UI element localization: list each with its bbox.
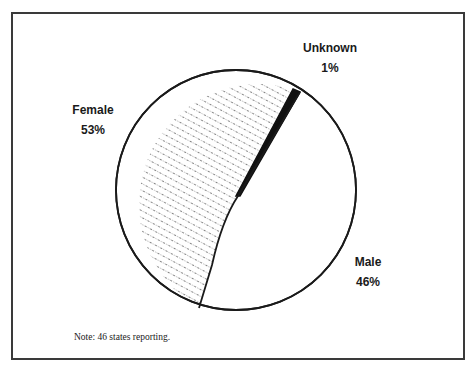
- label-female-name: Female: [53, 100, 133, 120]
- label-female-pct: 53%: [53, 120, 133, 140]
- label-male-name: Male: [328, 252, 408, 272]
- label-male-pct: 46%: [328, 272, 408, 292]
- label-male: Male 46%: [328, 252, 408, 292]
- chart-note: Note: 46 states reporting.: [74, 332, 170, 342]
- label-female: Female 53%: [53, 100, 133, 140]
- label-unknown-name: Unknown: [290, 38, 370, 58]
- pie-chart: [0, 0, 469, 367]
- label-unknown-pct: 1%: [290, 58, 370, 78]
- label-unknown: Unknown 1%: [290, 38, 370, 78]
